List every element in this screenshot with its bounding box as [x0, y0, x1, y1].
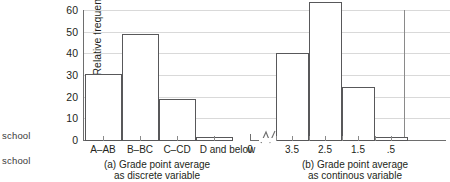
x-tick-b-mid-1.5	[358, 136, 359, 141]
y-tick-30: 30	[56, 70, 78, 81]
bar-b-3.5	[276, 53, 309, 141]
bar-a-A-AB	[85, 74, 122, 141]
y-tick-10: 10	[56, 113, 78, 124]
y-axis-line-a	[83, 10, 84, 141]
caption-b-line1: (b) Grade point average	[260, 159, 450, 171]
bar-a-B-BC	[122, 34, 159, 141]
y-tick-50: 50	[56, 27, 78, 38]
figure-container: school school Relative frequency 60 50 4…	[0, 0, 450, 182]
axis-break-mask	[259, 138, 277, 142]
x-label-b-1.5: 1.5	[346, 145, 370, 155]
x-tick-b-mid-2.5	[325, 136, 326, 141]
chart-panel-a: Relative frequency 60 50 40 30 20 10 0 A…	[46, 0, 236, 182]
y-tick-20: 20	[56, 92, 78, 103]
y-tick-40: 40	[56, 48, 78, 59]
x-tick-b-mid-3.5	[292, 136, 293, 141]
x-label-b-.5: .5	[379, 145, 403, 155]
caption-b-line2: as continous variable	[260, 170, 450, 182]
x-label-b-2.5: 2.5	[313, 145, 337, 155]
y-tick-0: 0	[56, 135, 78, 146]
x-tick-b-mid-.5	[391, 136, 392, 141]
x-tick-a-1	[103, 136, 104, 141]
bar-a-C-CD	[159, 99, 196, 141]
bar-b-1.5	[342, 87, 375, 141]
margin-note-bottom: school	[2, 155, 31, 166]
x-tick-a-4	[214, 136, 215, 141]
x-tick-a-3	[177, 136, 178, 141]
caption-a-line1: (a) Grade point average	[62, 159, 252, 171]
plot-right-edge-b	[404, 10, 405, 140]
x-tick-b-edge-2	[309, 136, 310, 141]
margin-note-top: school	[2, 130, 31, 141]
x-tick-a-2	[140, 136, 141, 141]
x-tick-b-edge-3	[342, 136, 343, 141]
x-label-b-3.5: 3.5	[280, 145, 304, 155]
y-tick-60: 60	[56, 5, 78, 16]
bar-b-2.5	[309, 2, 342, 141]
x-tick-b-edge-4	[375, 136, 376, 141]
caption-a-line2: as discrete variable	[62, 170, 252, 182]
x-tick-b-edge-1	[276, 136, 277, 141]
chart-panel-b: 0 3.5 2.5 1.5 .5 (b) Grade point average…	[246, 0, 450, 182]
x-axis-origin-stub-b	[250, 134, 251, 141]
x-label-b-origin: 0	[238, 145, 262, 155]
